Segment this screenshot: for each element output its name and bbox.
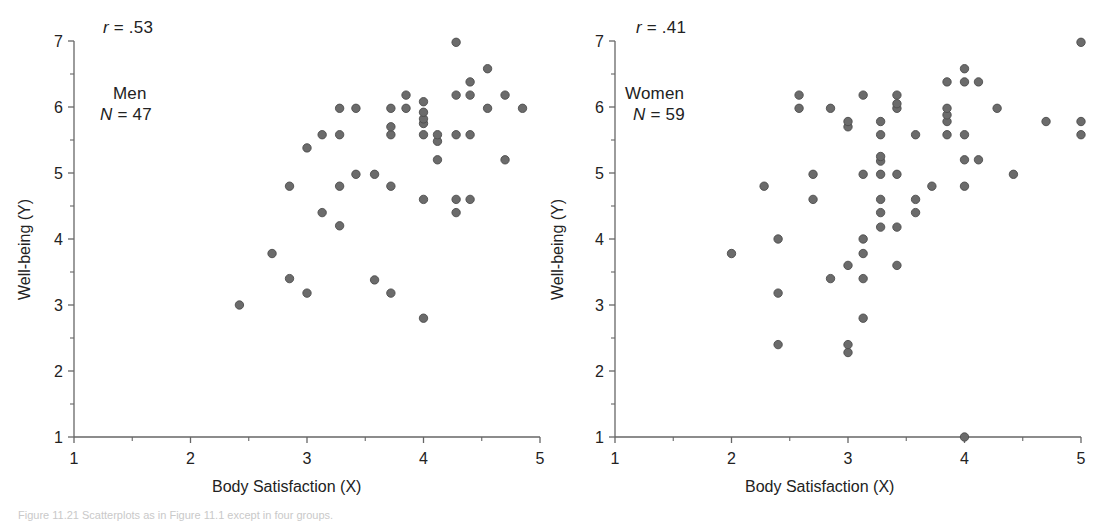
svg-text:1: 1 [611,450,620,467]
svg-text:4: 4 [960,450,969,467]
figure-container: 123456712345 r = .53 Men N = 47 Well-bei… [0,0,1093,527]
svg-text:2: 2 [595,363,604,380]
svg-text:3: 3 [303,450,312,467]
annotation-correlation-men: r = .53 [103,18,153,38]
svg-text:1: 1 [54,429,63,446]
svg-text:4: 4 [54,231,63,248]
y-axis-label-men: Well-being (Y) [16,199,34,300]
svg-text:3: 3 [54,297,63,314]
n-symbol-women: N [633,105,645,124]
y-axis-label-women: Well-being (Y) [549,199,567,300]
r-symbol-men: r [103,18,109,37]
svg-text:5: 5 [595,165,604,182]
n-symbol-men: N [100,105,112,124]
svg-text:4: 4 [595,231,604,248]
svg-text:4: 4 [419,450,428,467]
r-symbol-women: r [636,18,642,37]
annotation-n-women: N = 59 [633,105,685,125]
svg-text:2: 2 [54,363,63,380]
svg-text:3: 3 [595,297,604,314]
x-axis-label-women: Body Satisfaction (X) [745,478,894,496]
figure-caption: Figure 11.21 Scatterplots as in Figure 1… [18,509,718,521]
svg-text:2: 2 [727,450,736,467]
annotation-n-men: N = 47 [100,105,152,125]
svg-text:3: 3 [844,450,853,467]
n-value-men: = 47 [117,105,151,124]
svg-text:2: 2 [186,450,195,467]
scatter-panel-women: 123456712345 r = .41 Women N = 59 Well-b… [541,0,1093,527]
x-axis-label-men: Body Satisfaction (X) [212,478,361,496]
plot-svg-women: 123456712345 [541,0,1093,500]
svg-text:6: 6 [54,99,63,116]
n-value-women: = 59 [650,105,684,124]
svg-text:1: 1 [70,450,79,467]
svg-text:1: 1 [595,429,604,446]
annotation-group-women: Women [625,84,684,104]
svg-text:6: 6 [595,99,604,116]
plot-svg-men: 123456712345 [0,0,552,500]
svg-text:5: 5 [1077,450,1086,467]
annotation-group-men: Men [113,84,147,104]
annotation-correlation-women: r = .41 [636,18,686,38]
r-value-men: = .53 [114,18,153,37]
svg-text:7: 7 [595,33,604,50]
svg-text:5: 5 [54,165,63,182]
svg-text:7: 7 [54,33,63,50]
scatter-panel-men: 123456712345 r = .53 Men N = 47 Well-bei… [0,0,552,527]
r-value-women: = .41 [647,18,686,37]
